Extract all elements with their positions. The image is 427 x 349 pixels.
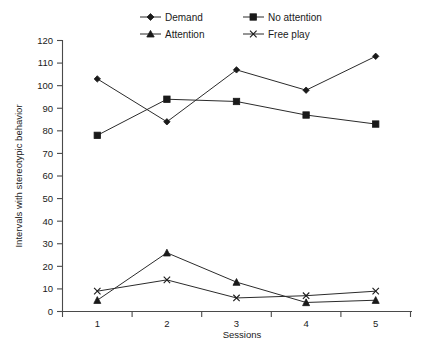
data-point-attention-2 (163, 249, 170, 256)
data-point-demand-1 (94, 76, 100, 82)
legend-item-attention: Attention (140, 29, 204, 40)
series-line-attention (97, 253, 375, 303)
data-point-demand-5 (373, 53, 379, 59)
legend-label-free-play: Free play (268, 29, 310, 40)
x-axis-ticks (63, 312, 411, 318)
chart-axes: 0102030405060708090100110120 12345 Sessi… (13, 35, 412, 340)
y-tick-label: 60 (42, 170, 53, 181)
y-tick-label: 120 (37, 35, 53, 46)
chart-canvas: Demand No attention Attention Free play (0, 0, 427, 349)
y-tick-label: 100 (37, 80, 53, 91)
data-point-no-attention-2 (164, 96, 170, 102)
y-tick-label: 90 (42, 103, 53, 114)
series-no-attention (94, 96, 379, 139)
square-icon (250, 14, 256, 20)
plot-area (94, 53, 379, 306)
x-tick-label: 4 (303, 318, 308, 329)
legend-item-no-attention: No attention (243, 12, 322, 23)
x-axis-title: Sessions (223, 329, 262, 340)
y-tick-label: 50 (42, 193, 53, 204)
x-tick-label: 3 (234, 318, 239, 329)
data-point-no-attention-3 (233, 98, 239, 104)
line-chart: Demand No attention Attention Free play (0, 0, 427, 349)
legend-item-demand: Demand (140, 12, 203, 23)
data-point-no-attention-1 (94, 132, 100, 138)
x-tick-label: 5 (373, 318, 378, 329)
y-axis-title: Intervals with stereotypic behavior (13, 104, 24, 247)
y-tick-label: 110 (38, 57, 53, 68)
series-demand (94, 53, 379, 125)
y-tick-label: 10 (42, 283, 53, 294)
legend-label-demand: Demand (165, 12, 203, 23)
y-tick-label: 80 (42, 125, 53, 136)
y-axis-tick-labels: 0102030405060708090100110120 (37, 35, 53, 317)
data-point-attention-3 (233, 279, 240, 286)
y-axis-ticks (57, 41, 63, 312)
data-point-demand-4 (303, 87, 309, 93)
x-axis-tick-labels: 12345 (95, 318, 379, 329)
y-tick-label: 20 (42, 261, 53, 272)
legend-label-attention: Attention (165, 29, 204, 40)
legend-label-no-attention: No attention (268, 12, 322, 23)
chart-legend: Demand No attention Attention Free play (140, 12, 322, 40)
y-tick-label: 30 (42, 238, 53, 249)
data-point-no-attention-4 (303, 112, 309, 118)
legend-item-free-play: Free play (243, 29, 310, 40)
x-tick-label: 1 (95, 318, 100, 329)
x-tick-label: 2 (164, 318, 169, 329)
data-point-attention-1 (94, 297, 101, 304)
y-tick-label: 0 (48, 306, 53, 317)
y-tick-label: 70 (42, 148, 53, 159)
y-tick-label: 40 (42, 216, 53, 227)
diamond-icon (147, 14, 154, 21)
data-point-no-attention-5 (373, 121, 379, 127)
